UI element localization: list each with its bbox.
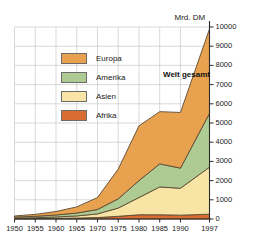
y-tick-label: 8000 [216,60,233,69]
legend-label: Amerika [96,73,125,82]
legend-swatch-europa-icon [61,53,87,64]
y-tick-label: 5000 [216,118,233,127]
legend-item-afrika[interactable]: Afrika [61,110,116,121]
legend-swatch-afrika-icon [61,110,87,121]
y-tick-label: 1000 [216,195,233,204]
y-tick-label: 10000 [216,22,237,31]
y-tick-label: 6000 [216,99,233,108]
legend-swatch-amerika-icon [61,72,87,83]
y-tick-label: 7000 [216,80,233,89]
legend-label: Europa [96,54,122,63]
chart-figure: Mrd. DM 01000200030004000500060007000800… [0,0,271,249]
x-tick-label: 1997 [197,224,223,233]
y-tick-label: 2000 [216,176,233,185]
y-axis-unit-label: Mrd. DM [175,13,206,22]
y-tick-label: 4000 [216,137,233,146]
legend-item-amerika[interactable]: Amerika [61,72,125,83]
legend-item-europa[interactable]: Europa [61,53,122,64]
legend-swatch-asien-icon [61,91,87,102]
y-tick-label: 0 [216,214,220,223]
x-tick-label: 1990 [167,224,193,233]
legend-label: Afrika [96,111,116,120]
series-annotation-welt-gesamt: Welt gesamt [163,70,210,79]
y-tick-label: 9000 [216,41,233,50]
legend-label: Asien [96,92,116,101]
y-tick-label: 3000 [216,156,233,165]
legend-item-asien[interactable]: Asien [61,91,116,102]
